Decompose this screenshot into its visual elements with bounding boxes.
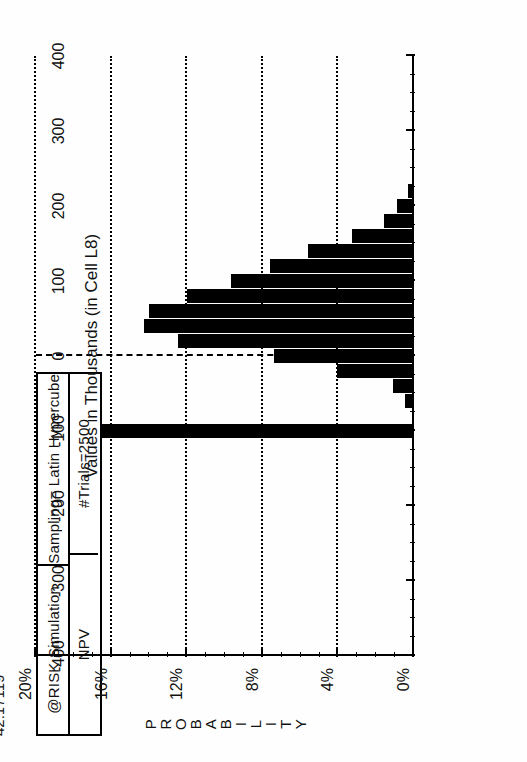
value-tick bbox=[406, 129, 415, 131]
value-tick bbox=[410, 618, 415, 619]
probability-tick bbox=[34, 648, 36, 657]
probability-tick bbox=[148, 652, 149, 657]
probability-tick bbox=[336, 648, 338, 657]
probability-tick bbox=[319, 652, 320, 657]
probability-axis-letter: B bbox=[218, 719, 233, 729]
probability-tick bbox=[261, 648, 263, 657]
value-tick-label: -400 bbox=[50, 626, 68, 686]
value-tick bbox=[410, 636, 415, 637]
probability-tick bbox=[110, 648, 112, 657]
probability-tick bbox=[167, 652, 168, 657]
histogram-bar bbox=[384, 215, 414, 229]
value-tick bbox=[410, 468, 415, 469]
value-tick bbox=[410, 336, 415, 337]
probability-axis-letter: B bbox=[188, 719, 203, 729]
histogram-bar bbox=[102, 425, 414, 439]
value-tick-label: -100 bbox=[50, 401, 68, 461]
probability-axis-letter: O bbox=[173, 718, 188, 730]
probability-tick bbox=[54, 652, 55, 657]
value-tick bbox=[410, 224, 415, 225]
probability-tick-label: 0% bbox=[395, 668, 413, 691]
value-tick-label: -200 bbox=[50, 476, 68, 536]
probability-axis-title: PROBABILITY bbox=[143, 718, 308, 730]
gridline-16% bbox=[110, 56, 112, 656]
value-tick-label: 400 bbox=[50, 26, 68, 86]
value-tick bbox=[410, 486, 415, 487]
probability-tick bbox=[130, 652, 131, 657]
histogram-bar bbox=[397, 200, 414, 214]
value-tick-label: 0 bbox=[50, 326, 68, 386]
value-tick bbox=[406, 54, 415, 56]
probability-tick-label: 4% bbox=[319, 668, 337, 691]
value-tick bbox=[410, 599, 415, 600]
histogram-bar bbox=[308, 245, 414, 259]
probability-tick bbox=[394, 652, 395, 657]
value-axis-title: Values in Thousands (in Cell L8) bbox=[82, 56, 102, 656]
probability-tick bbox=[281, 652, 282, 657]
value-tick bbox=[406, 279, 415, 281]
probability-tick bbox=[300, 652, 301, 657]
value-tick bbox=[410, 111, 415, 112]
value-tick bbox=[410, 374, 415, 375]
histogram-bar bbox=[231, 275, 414, 289]
probability-tick-label: 20% bbox=[17, 668, 35, 700]
value-tick bbox=[406, 429, 415, 431]
rotated-figure-canvas: Expected Result= 42.17119 @RISK Simulati… bbox=[0, 0, 527, 762]
probability-tick-label: 12% bbox=[168, 668, 186, 700]
value-tick bbox=[410, 524, 415, 525]
gridline-12% bbox=[185, 56, 187, 656]
histogram-bar bbox=[274, 350, 414, 364]
value-tick bbox=[406, 504, 415, 506]
probability-axis-letter: P bbox=[143, 719, 158, 729]
probability-tick bbox=[375, 652, 376, 657]
value-tick bbox=[406, 204, 415, 206]
histogram-bar bbox=[393, 380, 414, 394]
probability-axis-letter: I bbox=[263, 722, 278, 726]
probability-tick bbox=[73, 652, 74, 657]
value-tick-label: -300 bbox=[50, 551, 68, 611]
value-tick bbox=[410, 449, 415, 450]
histogram-bar bbox=[149, 305, 414, 319]
value-tick bbox=[410, 318, 415, 319]
probability-axis-letter: A bbox=[203, 719, 218, 729]
value-tick bbox=[410, 261, 415, 262]
expected-result-note: Expected Result= 42.17119 bbox=[0, 673, 7, 736]
value-tick bbox=[410, 411, 415, 412]
value-tick bbox=[410, 299, 415, 300]
value-tick bbox=[410, 149, 415, 150]
value-tick bbox=[406, 354, 415, 356]
probability-tick bbox=[243, 652, 244, 657]
chart-figure: Expected Result= 42.17119 @RISK Simulati… bbox=[0, 0, 527, 762]
value-tick-label: 200 bbox=[50, 176, 68, 236]
gridline-20% bbox=[34, 56, 36, 656]
gridline-8% bbox=[261, 56, 263, 656]
histogram-bar bbox=[270, 260, 414, 274]
gridline-4% bbox=[336, 56, 338, 656]
value-tick bbox=[410, 561, 415, 562]
histogram-bar bbox=[337, 365, 414, 379]
probability-tick-label: 8% bbox=[244, 668, 262, 691]
value-tick bbox=[410, 393, 415, 394]
value-tick bbox=[410, 74, 415, 75]
probability-axis-letter: T bbox=[278, 720, 293, 729]
plot-area: -400-300-200-1000100200300400 0%4%8%12%1… bbox=[36, 56, 414, 656]
probability-tick bbox=[224, 652, 225, 657]
probability-axis-letter: L bbox=[248, 720, 263, 728]
probability-tick bbox=[185, 648, 187, 657]
probability-tick-label: 16% bbox=[93, 668, 111, 700]
value-tick-label: 300 bbox=[50, 101, 68, 161]
value-tick bbox=[410, 168, 415, 169]
value-tick bbox=[410, 243, 415, 244]
value-tick bbox=[410, 186, 415, 187]
value-tick-label: 100 bbox=[50, 251, 68, 311]
probability-axis-letter: I bbox=[233, 722, 248, 726]
probability-axis-letter: R bbox=[158, 719, 173, 730]
histogram-bar bbox=[352, 230, 414, 244]
probability-tick bbox=[205, 652, 206, 657]
probability-tick bbox=[356, 652, 357, 657]
histogram-bar bbox=[187, 290, 414, 304]
histogram-bar bbox=[178, 335, 414, 349]
value-tick bbox=[410, 543, 415, 544]
probability-tick bbox=[412, 648, 414, 657]
value-tick bbox=[406, 579, 415, 581]
